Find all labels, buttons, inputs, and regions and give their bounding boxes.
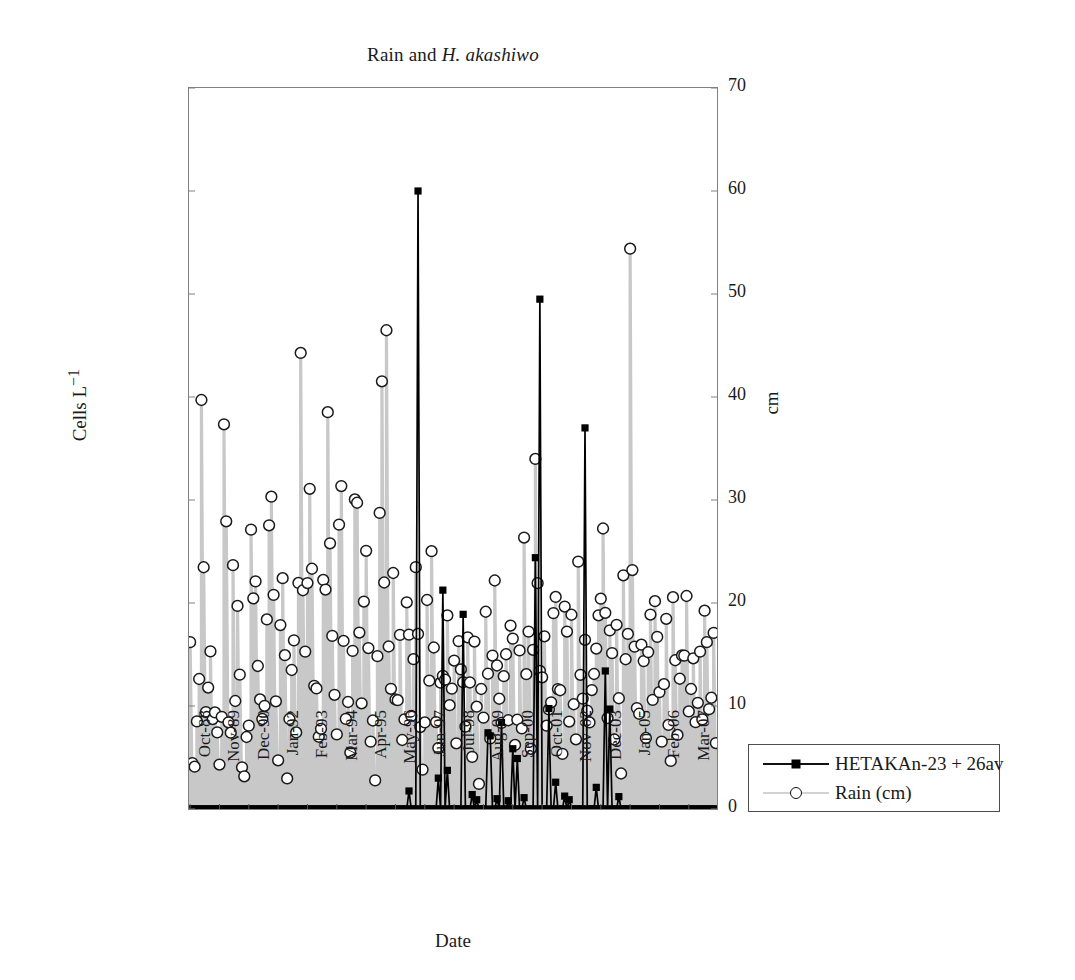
x-tick-label: Nov-89 — [225, 710, 242, 820]
rain-marker — [620, 654, 631, 665]
x-tick-label: Nov-02 — [577, 710, 594, 820]
legend-label-hetakan: HETAKAn-23 + 26av — [835, 753, 1004, 775]
rain-marker — [476, 684, 487, 695]
rain-marker — [392, 695, 403, 706]
rain-marker — [413, 629, 424, 640]
x-tick-label: Feb-06 — [665, 710, 682, 820]
x-tick-label: Jun-97 — [431, 710, 448, 820]
y2-tick-label: 40 — [728, 385, 788, 403]
x-tick-label: Aug-99 — [489, 710, 506, 820]
rain-marker — [331, 729, 342, 740]
rain-marker — [566, 609, 577, 620]
rain-marker — [523, 626, 534, 637]
chart-legend: HETAKAn-23 + 26av Rain (cm) — [748, 744, 1000, 812]
rain-marker — [354, 627, 365, 638]
rain-marker — [327, 631, 338, 642]
rain-marker — [465, 677, 476, 688]
y-axis-title: Cells L−1 — [65, 305, 91, 505]
y2-tick-label: 10 — [728, 694, 788, 712]
rain-marker — [363, 643, 374, 654]
rain-marker — [562, 626, 573, 637]
rain-marker — [419, 717, 430, 728]
x-tick-label: Jan-92 — [284, 710, 301, 820]
rain-marker — [498, 671, 509, 682]
rain-marker — [372, 651, 383, 662]
rain-marker — [300, 646, 311, 657]
rain-marker — [311, 683, 322, 694]
hetakan-marker — [536, 296, 543, 303]
x-tick-label: Apr-95 — [372, 710, 389, 820]
rain-marker — [611, 619, 622, 630]
rain-marker — [487, 650, 498, 661]
hetakan-marker — [460, 611, 467, 618]
rain-marker — [338, 636, 349, 647]
rain-marker — [607, 648, 618, 659]
legend-item-rain[interactable]: Rain (cm) — [749, 778, 999, 808]
y2-tick-label: 70 — [728, 76, 788, 94]
rain-marker — [264, 520, 275, 531]
x-tick-label: Mar-94 — [343, 710, 360, 820]
y-axis-title-exponent: −1 — [65, 369, 82, 386]
rain-marker — [221, 516, 232, 527]
rain-marker — [480, 606, 491, 617]
rain-marker — [334, 519, 345, 530]
rain-marker — [379, 577, 390, 588]
rain-marker — [401, 597, 412, 608]
x-tick-label: Dec-03 — [607, 710, 624, 820]
legend-item-hetakan[interactable]: HETAKAn-23 + 26av — [749, 749, 999, 779]
rain-marker — [701, 637, 712, 648]
hetakan-marker — [581, 424, 588, 431]
rain-marker — [352, 497, 363, 508]
rain-marker — [336, 481, 347, 492]
rain-marker — [469, 636, 480, 647]
rain-marker — [507, 633, 518, 644]
rain-marker — [668, 592, 679, 603]
rain-marker — [361, 545, 372, 556]
x-tick-label: Jul-98 — [460, 710, 477, 820]
rain-marker — [252, 661, 263, 672]
x-axis-title: Date — [188, 930, 718, 952]
rain-marker — [627, 565, 638, 576]
y2-tick-label: 20 — [728, 591, 788, 609]
rain-marker — [270, 696, 281, 707]
rain-marker — [622, 629, 633, 640]
rain-marker — [356, 698, 367, 709]
chart-figure: Rain and H. akashiwo Cells L−1 cm 02,000… — [0, 0, 1075, 980]
rain-marker — [358, 596, 369, 607]
rain-marker — [686, 684, 697, 695]
plot-canvas — [189, 88, 717, 809]
hetakan-marker — [509, 745, 516, 752]
rain-marker — [661, 613, 672, 624]
y2-tick-label: 60 — [728, 179, 788, 197]
square-marker-icon — [792, 760, 801, 769]
rain-marker — [261, 614, 272, 625]
hetakan-marker — [414, 187, 421, 194]
x-tick-label: Feb-93 — [313, 710, 330, 820]
rain-marker — [198, 562, 209, 573]
rain-marker — [444, 700, 455, 711]
x-tick-label: Oct-88 — [196, 710, 213, 820]
x-tick-label: Oct-01 — [548, 710, 565, 820]
rain-marker — [659, 679, 670, 690]
rain-marker — [674, 673, 685, 684]
hetakan-marker — [439, 587, 446, 594]
rain-marker — [521, 669, 532, 680]
rain-marker — [302, 578, 313, 589]
rain-marker — [408, 654, 419, 665]
rain-marker — [613, 693, 624, 704]
rain-marker — [388, 568, 399, 579]
rain-marker — [320, 584, 331, 595]
rain-marker — [492, 660, 503, 671]
rain-marker — [422, 595, 433, 606]
rain-marker — [424, 675, 435, 686]
chart-title-species: H. akashiwo — [442, 44, 539, 65]
rain-marker — [426, 546, 437, 557]
rain-marker — [374, 508, 385, 519]
rain-marker — [555, 685, 566, 696]
rain-marker — [519, 532, 530, 543]
rain-marker — [591, 643, 602, 654]
rain-marker — [325, 538, 336, 549]
legend-key-rain — [757, 780, 835, 806]
rain-marker — [417, 764, 428, 775]
hetakan-marker — [532, 554, 539, 561]
